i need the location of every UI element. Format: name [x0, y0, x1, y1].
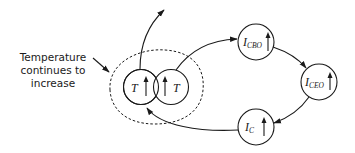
annotation-line-2: continues to — [20, 64, 85, 76]
arrow-iceo-to-ic — [274, 97, 309, 123]
annotation-line-3: increase — [31, 77, 75, 89]
arrow-icbo-to-iceo — [273, 47, 306, 68]
node-ic — [238, 109, 274, 145]
arrow-t-to-icbo — [176, 39, 237, 70]
annotation-leader-arrow — [93, 58, 109, 72]
thermal-runaway-diagram: T T ICBO ICEO IC Temperature continues t… — [0, 0, 355, 153]
escape-arrow — [140, 10, 164, 69]
annotation-line-1: Temperature — [19, 51, 87, 63]
